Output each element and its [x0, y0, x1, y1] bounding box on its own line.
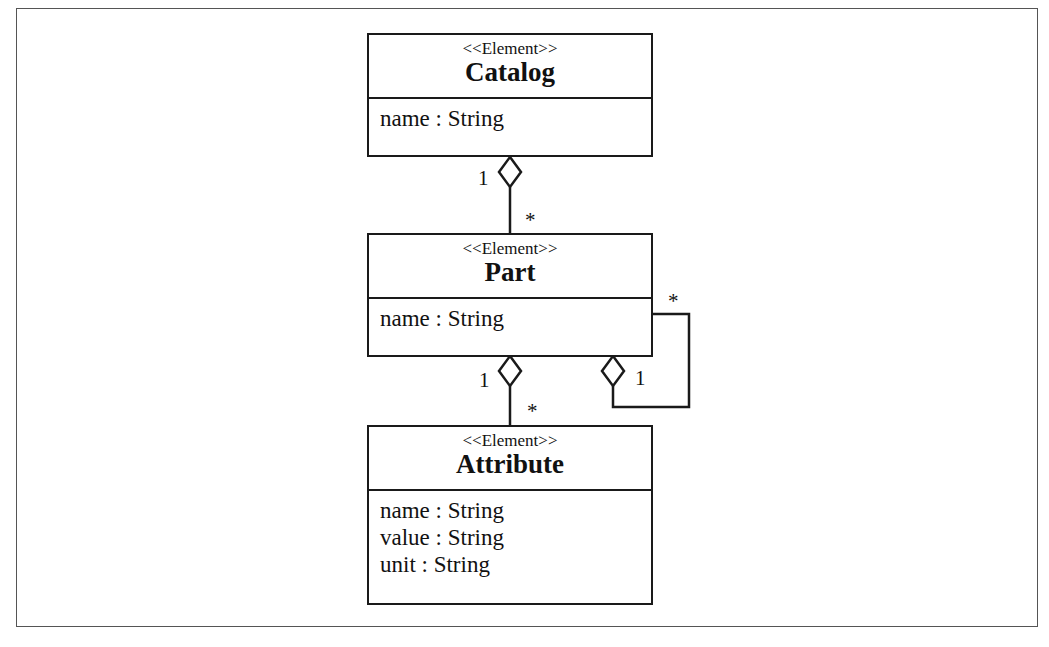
attribute-item: name : String: [380, 105, 651, 132]
class-header: <<Element>> Attribute: [369, 427, 651, 491]
class-attribute[interactable]: <<Element>> Attribute name : String valu…: [367, 425, 653, 605]
class-header: <<Element>> Part: [369, 235, 651, 299]
attribute-item: value : String: [380, 524, 651, 551]
attribute-compartment: name : String: [369, 99, 651, 132]
attribute-item: unit : String: [380, 551, 651, 578]
multiplicity-self-part: *: [668, 291, 679, 312]
class-name: Attribute: [369, 449, 651, 479]
attribute-compartment: name : String value : String unit : Stri…: [369, 491, 651, 578]
multiplicity-self-whole: 1: [635, 368, 646, 389]
stereotype-label: <<Element>>: [369, 235, 651, 257]
attribute-item: name : String: [380, 497, 651, 524]
class-header: <<Element>> Catalog: [369, 35, 651, 99]
multiplicity-part-whole: 1: [479, 370, 490, 391]
stereotype-label: <<Element>>: [369, 35, 651, 57]
class-name: Part: [369, 257, 651, 287]
multiplicity-attribute-part: *: [527, 401, 538, 422]
class-part[interactable]: <<Element>> Part name : String: [367, 233, 653, 357]
class-catalog[interactable]: <<Element>> Catalog name : String: [367, 33, 653, 157]
multiplicity-catalog-whole: 1: [478, 168, 489, 189]
attribute-compartment: name : String: [369, 299, 651, 332]
attribute-item: name : String: [380, 305, 651, 332]
multiplicity-catalog-part: *: [525, 210, 536, 231]
stereotype-label: <<Element>>: [369, 427, 651, 449]
class-name: Catalog: [369, 57, 651, 87]
